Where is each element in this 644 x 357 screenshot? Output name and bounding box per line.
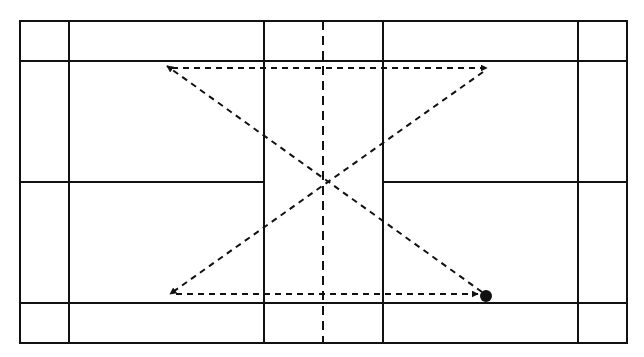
movement-arrow-diagonal-up-left: [167, 66, 482, 292]
player-position-dot: [480, 290, 492, 302]
badminton-court-diagram: [0, 0, 644, 357]
movement-path: [167, 66, 487, 294]
player-dot-group: [480, 290, 492, 302]
